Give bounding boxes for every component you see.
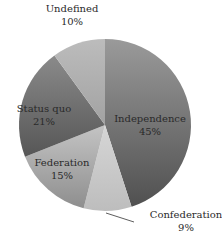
- slice-percent-confederation: 9%: [178, 222, 194, 233]
- slice-label-status-quo: Status quo: [17, 103, 71, 114]
- slice-label-confederation: Confederation: [150, 209, 222, 220]
- slice-label-independence: Independence: [114, 113, 186, 124]
- pie-chart: Independence45%Confederation9%Federation…: [0, 0, 222, 247]
- confederation-leader-line: [106, 213, 134, 222]
- slice-label-undefined: Undefined: [46, 3, 99, 14]
- slice-percent-independence: 45%: [139, 126, 161, 137]
- slice-label-federation: Federation: [34, 157, 90, 168]
- slice-percent-federation: 15%: [51, 170, 73, 181]
- slice-percent-status-quo: 21%: [33, 116, 55, 127]
- slice-percent-undefined: 10%: [61, 16, 83, 27]
